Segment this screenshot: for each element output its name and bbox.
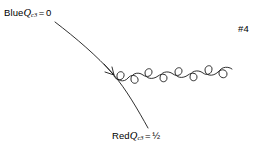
label-red-prefix: Red <box>112 130 130 141</box>
fermion-line <box>55 22 148 128</box>
gluon-coil <box>114 66 232 84</box>
figure-number-label: #4 <box>238 24 249 34</box>
label-red-subscript: c3 <box>137 134 143 141</box>
label-red-charge: RedQc3=½ <box>112 130 160 142</box>
label-blue-equals: = <box>37 7 46 18</box>
label-red-equals: = <box>144 130 153 141</box>
label-red-value: ½ <box>152 130 160 141</box>
label-blue-prefix: Blue <box>4 7 23 18</box>
label-blue-symbol: Q <box>23 7 31 18</box>
diagram-canvas: BlueQc3=0 RedQc3=½ #4 <box>0 0 269 150</box>
feynman-diagram-svg <box>0 0 269 150</box>
label-blue-value: 0 <box>46 7 51 18</box>
label-blue-charge: BlueQc3=0 <box>4 7 51 19</box>
direction-arrow-icon <box>104 64 114 75</box>
